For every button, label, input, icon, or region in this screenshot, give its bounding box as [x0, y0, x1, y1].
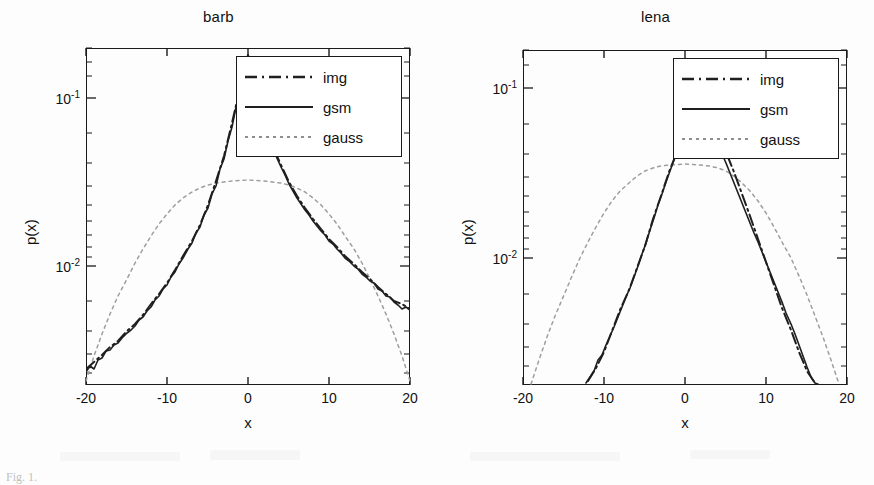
x-tick-label: 20	[402, 390, 418, 406]
legend-label-img: img	[315, 70, 347, 85]
legend-entry-gsm: gsm	[680, 94, 830, 124]
y-tick-mantissa: 10	[493, 81, 509, 97]
panel-lena: lena p(x) x	[437, 0, 874, 440]
legend-label-gauss: gauss	[752, 132, 800, 147]
legend-barb: img gsm gauss	[236, 56, 402, 157]
x-tick-label: -20	[513, 390, 533, 406]
legend-line-dashdot-icon	[243, 70, 315, 84]
scan-artifact	[60, 452, 180, 461]
legend-entry-gsm: gsm	[243, 92, 393, 122]
scan-artifact	[470, 452, 620, 461]
y-tick-mantissa: 10	[493, 251, 509, 267]
legend-line-dotted-icon	[243, 130, 315, 144]
y-tick-label: 10-1	[32, 89, 80, 107]
x-tick-label: 10	[758, 390, 774, 406]
figure-root: barb p(x) x	[0, 0, 874, 485]
legend-entry-gauss: gauss	[680, 124, 830, 154]
curve-gauss-barb	[86, 180, 410, 381]
y-tick-label: 10-1	[469, 79, 517, 97]
y-tick-exponent: -1	[508, 79, 517, 90]
legend-entry-img: img	[680, 64, 830, 94]
legend-line-dotted-icon	[680, 132, 752, 146]
y-tick-exponent: -2	[71, 257, 80, 268]
legend-lena: img gsm gauss	[673, 58, 839, 159]
legend-line-solid-icon	[243, 100, 315, 114]
y-tick-exponent: -1	[71, 89, 80, 100]
legend-label-gsm: gsm	[752, 102, 788, 117]
legend-line-dashdot-icon	[680, 72, 752, 86]
figure-caption: Fig. 1.	[6, 470, 37, 485]
y-tick-mantissa: 10	[56, 91, 72, 107]
curve-gauss-lena	[531, 164, 839, 384]
y-tick-mantissa: 10	[56, 259, 72, 275]
x-tick-label: -20	[76, 390, 96, 406]
scan-artifact	[210, 450, 300, 460]
legend-label-img: img	[752, 72, 784, 87]
x-tick-label: 20	[839, 390, 855, 406]
y-tick-label: 10-2	[32, 257, 80, 275]
panel-barb: barb p(x) x	[0, 0, 437, 440]
legend-label-gsm: gsm	[315, 100, 351, 115]
y-tick-exponent: -2	[508, 249, 517, 260]
y-tick-label: 10-2	[469, 249, 517, 267]
x-tick-label: 0	[681, 390, 689, 406]
x-tick-label: -10	[157, 390, 177, 406]
legend-entry-img: img	[243, 62, 393, 92]
x-tick-label: 0	[244, 390, 252, 406]
legend-line-solid-icon	[680, 102, 752, 116]
legend-entry-gauss: gauss	[243, 122, 393, 152]
x-tick-label: 10	[321, 390, 337, 406]
x-tick-label: -10	[594, 390, 614, 406]
scan-artifact	[690, 450, 770, 459]
legend-label-gauss: gauss	[315, 130, 363, 145]
